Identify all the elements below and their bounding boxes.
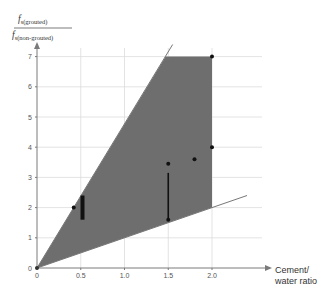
data-point-marker <box>72 206 76 210</box>
y-tick-label: 1 <box>28 234 32 241</box>
range-bar-thick <box>81 196 85 220</box>
y-tick-label: 5 <box>28 114 32 121</box>
x-axis-label-line1: Cement/ <box>275 265 310 275</box>
x-axis-ticks: 00.51.01.52.0 <box>35 268 217 279</box>
data-point-marker <box>166 218 170 222</box>
origin-marker <box>35 266 39 270</box>
y-label-denominator: fs(non-grouted) <box>12 30 53 42</box>
x-axis-label-line2: water ratio <box>274 276 317 286</box>
x-tick-label: 1.0 <box>120 272 130 279</box>
x-axis-arrow-icon <box>265 265 272 271</box>
y-tick-label: 7 <box>28 53 32 60</box>
y-tick-label: 2 <box>28 204 32 211</box>
data-point-marker <box>193 157 197 161</box>
x-tick-label: 0 <box>35 272 39 279</box>
y-tick-label: 4 <box>28 144 32 151</box>
y-axis-arrow-icon <box>34 42 40 49</box>
data-point-marker <box>210 55 214 59</box>
data-point-marker <box>166 162 170 166</box>
x-tick-label: 2.0 <box>207 272 217 279</box>
x-tick-label: 0.5 <box>76 272 86 279</box>
data-point-marker <box>210 145 214 149</box>
chart-svg: 00.51.01.52.0 01234567 Cement/ water rat… <box>0 0 329 300</box>
y-tick-label: 0 <box>28 265 32 272</box>
y-tick-label: 6 <box>28 83 32 90</box>
y-axis-label: fs(grouted) fs(non-grouted) <box>12 14 72 42</box>
x-tick-label: 1.5 <box>163 272 173 279</box>
y-tick-label: 3 <box>28 174 32 181</box>
y-axis-ticks: 01234567 <box>28 53 37 271</box>
y-label-numerator: fs(grouted) <box>18 14 47 26</box>
